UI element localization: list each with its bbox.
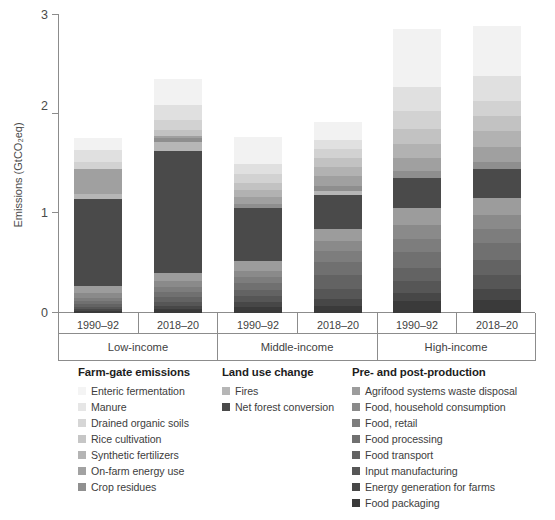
legend-items-land-use-change: FiresNet forest conversion [222, 383, 340, 414]
legend-items-farm-gate-emissions: Enteric fermentationManureDrained organi… [78, 383, 228, 494]
bar-segment [314, 241, 362, 251]
legend-item-label: Rice cultivation [91, 433, 161, 445]
legend-item[interactable]: Agrifood systems waste disposal [352, 383, 552, 398]
bar-segment [154, 287, 202, 292]
bar-segment [74, 293, 122, 298]
legend-item[interactable]: Rice cultivation [78, 431, 228, 446]
x-period-label-low-1990: 1990–92 [77, 319, 119, 331]
bar-segment [393, 208, 441, 225]
chart-legend: Farm-gate emissions Enteric fermentation… [0, 366, 555, 520]
bar-segment [393, 29, 441, 87]
bar-segment [393, 129, 441, 144]
bar-segment [154, 302, 202, 306]
bar-segment [154, 306, 202, 309]
bar-segment [74, 286, 122, 293]
stacked-bar [234, 137, 282, 312]
bar-segment [74, 307, 122, 309]
bar-segment [154, 151, 202, 272]
x-period-label-mid-1990: 1990–92 [237, 319, 279, 331]
bar-segment [74, 309, 122, 311]
legend-column-farm-gate-emissions: Farm-gate emissions Enteric fermentation… [78, 366, 228, 495]
legend-item[interactable]: On-farm energy use [78, 463, 228, 478]
legend-item[interactable]: Enteric fermentation [78, 383, 228, 398]
legend-item[interactable]: Crop residues [78, 479, 228, 494]
legend-item-label: Crop residues [91, 481, 156, 493]
bar-segment [234, 190, 282, 197]
legend-item-label: Food, retail [365, 417, 417, 429]
bar-segment [314, 251, 362, 262]
x-group-label-high-income: High-income [425, 341, 488, 353]
emissions-stacked-bar-chart: Emissions (GtCO₂eq) 3 2 1 0 1990–92 2018… [0, 0, 555, 520]
legend-item[interactable]: Net forest conversion [222, 399, 340, 414]
bar-segment [473, 116, 521, 131]
bar-segment [234, 174, 282, 183]
bar-segment [393, 158, 441, 171]
bar-segment [393, 239, 441, 252]
x-period-label-high-2018: 2018–20 [476, 319, 518, 331]
bar-segment [74, 311, 122, 313]
bar-segment [74, 169, 122, 194]
legend-item[interactable]: Drained organic soils [78, 415, 228, 430]
bar-segment [74, 194, 122, 199]
legend-item[interactable]: Input manufacturing [352, 463, 552, 478]
legend-items-pre-and-post-production: Agrifood systems waste disposalFood, hou… [352, 383, 552, 510]
y-tick-label-3: 3 [41, 8, 48, 22]
legend-title-farm-gate-emissions: Farm-gate emissions [78, 366, 228, 378]
legend-item[interactable]: Fires [222, 383, 340, 398]
bar-segment [314, 140, 362, 149]
bar-segment [154, 273, 202, 281]
legend-item-label: Manure [91, 401, 127, 413]
bar-segment [154, 309, 202, 313]
legend-item-label: Food processing [365, 433, 443, 445]
legend-item[interactable]: Food, retail [352, 415, 552, 430]
legend-item[interactable]: Synthetic fertilizers [78, 447, 228, 462]
legend-swatch-icon [222, 403, 230, 411]
bar-segment [314, 122, 362, 140]
bar-segment [393, 111, 441, 130]
legend-item[interactable]: Food packaging [352, 495, 552, 510]
bars-group [74, 26, 521, 313]
bar-segment [154, 138, 202, 142]
bar-segment [473, 169, 521, 198]
bar-segment [393, 301, 441, 313]
bar-segment [393, 293, 441, 301]
legend-item[interactable]: Food processing [352, 431, 552, 446]
y-tick-label-1: 1 [41, 206, 48, 220]
bar-segment [314, 275, 362, 289]
legend-title-land-use-change: Land use change [222, 366, 340, 378]
bar-segment [393, 268, 441, 281]
legend-swatch-icon [78, 467, 86, 475]
bar-segment [473, 229, 521, 243]
legend-item-label: Energy generation for farms [365, 481, 495, 493]
bar-segment [74, 301, 122, 304]
legend-item-label: Food, household consumption [365, 401, 506, 413]
stacked-bar [473, 26, 521, 313]
bar-segment [234, 137, 282, 164]
bar-segment [74, 199, 122, 286]
legend-title-pre-and-post-production: Pre- and post-production [352, 366, 552, 378]
bar-segment [234, 296, 282, 302]
bar-segment [314, 289, 362, 299]
bar-segment [473, 101, 521, 117]
bar-segment [74, 138, 122, 150]
legend-item[interactable]: Manure [78, 399, 228, 414]
bar-segment [234, 261, 282, 271]
legend-item-label: Food packaging [365, 497, 440, 509]
bar-segment [74, 150, 122, 162]
bar-segment [314, 306, 362, 313]
bar-segment [74, 304, 122, 307]
legend-swatch-icon [78, 483, 86, 491]
bar-segment [234, 183, 282, 190]
bar-segment [234, 307, 282, 313]
legend-swatch-icon [222, 387, 230, 395]
bar-segment [154, 142, 202, 151]
x-period-label-low-2018: 2018–20 [157, 319, 199, 331]
legend-item[interactable]: Energy generation for farms [352, 479, 552, 494]
legend-swatch-icon [352, 435, 360, 443]
legend-item-label: Synthetic fertilizers [91, 449, 179, 461]
legend-item-label: Food transport [365, 449, 433, 461]
legend-item[interactable]: Food, household consumption [352, 399, 552, 414]
legend-item[interactable]: Food transport [352, 447, 552, 462]
bar-segment [314, 158, 362, 167]
bar-segment [393, 225, 441, 239]
